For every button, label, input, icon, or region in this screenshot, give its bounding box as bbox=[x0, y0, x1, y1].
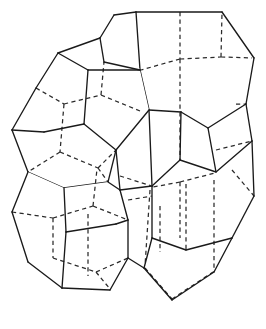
figure-canvas bbox=[0, 0, 266, 329]
figure-caption bbox=[0, 317, 266, 329]
dodecahedra-packing-figure bbox=[0, 0, 266, 329]
